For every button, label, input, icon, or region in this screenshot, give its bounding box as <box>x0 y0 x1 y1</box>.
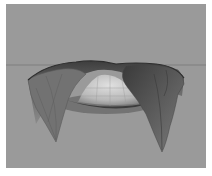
render-viewport <box>6 4 206 168</box>
draped-cloth-scene <box>6 4 206 168</box>
